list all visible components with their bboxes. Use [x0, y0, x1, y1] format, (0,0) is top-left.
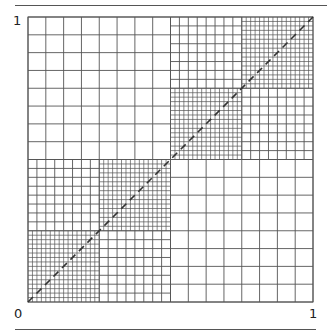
nested-grid-diagram: [0, 0, 331, 335]
